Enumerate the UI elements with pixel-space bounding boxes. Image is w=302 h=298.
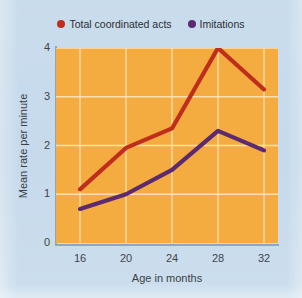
x-tick-label: 32: [251, 253, 277, 264]
y-axis-label: Mean rate per minute: [17, 76, 29, 216]
x-axis-ticks: 1620242832: [0, 0, 302, 298]
x-tick-label: 20: [113, 253, 139, 264]
x-tick-label: 28: [205, 253, 231, 264]
x-tick-label: 24: [159, 253, 185, 264]
x-tick-label: 16: [67, 253, 93, 264]
figure-container: Total coordinated acts Imitations 01234 …: [0, 0, 302, 298]
x-axis-label: Age in months: [56, 272, 278, 284]
